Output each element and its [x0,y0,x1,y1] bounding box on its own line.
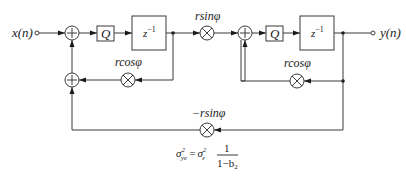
quantizer-label-1: Q [101,26,111,41]
fraction-denominator: 1−b2 [217,157,238,171]
gain-label-neg-rsin: −rsinφ [192,106,226,120]
output-terminal [371,31,375,35]
input-label: x(n) [11,25,33,40]
quantizer-label-2: Q [270,26,280,41]
arrow-icon [125,31,132,36]
arrow-icon [259,31,266,36]
multiplier-neg-rsin [200,123,214,137]
output-label: y(n) [378,25,401,40]
fraction-numerator: 1 [224,142,230,154]
arrow-icon [304,79,311,84]
multiplier-rcos-1 [121,73,135,87]
arrow-icon [79,78,86,83]
arrow-icon [90,31,97,36]
arrow-icon [214,128,221,133]
arrow-icon [243,40,248,47]
arrow-icon [193,31,200,36]
adder-3 [65,73,79,87]
svg-text:σ2ye=σ2ε: σ2ye=σ2ε [176,146,207,162]
input-terminal [35,31,39,35]
multiplier-rcos-2 [290,74,304,88]
arrow-icon [293,31,300,36]
gain-label-rcos-2: rcosφ [284,56,311,70]
arrow-icon [58,31,65,36]
arrow-icon [231,31,238,36]
gain-label-rcos-1: rcosφ [115,55,142,69]
signal-flow-diagram: x(n) Q z−1 rsinφ Q [0,0,406,177]
adder-1 [65,26,79,40]
multiplier-rsin [200,26,214,40]
gain-label-rsin: rsinφ [195,9,221,23]
noise-variance-formula: σ2ye=σ2ε 1 1−b2 [176,142,238,171]
arrow-icon [70,40,75,47]
arrow-icon [135,78,142,83]
arrow-icon [70,87,75,94]
adder-2 [238,26,252,40]
